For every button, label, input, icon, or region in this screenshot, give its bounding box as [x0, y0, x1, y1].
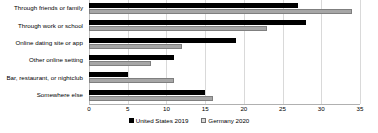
bar-united-states-2019 [89, 72, 128, 77]
x-axis-tick-label: 35 [357, 105, 364, 112]
bar-groups [89, 0, 360, 104]
bar-group [89, 17, 360, 34]
bar-group [89, 69, 360, 86]
gridline [360, 0, 361, 104]
x-axis-tick-label: 0 [87, 105, 90, 112]
bar-germany-2020 [89, 9, 352, 14]
category-label: Through work or school [0, 17, 86, 34]
plot-area [89, 0, 360, 104]
bar-germany-2020 [89, 78, 174, 83]
category-label: Through friends or family [0, 0, 86, 17]
category-label: Bar, restaurant, or nightclub [0, 69, 86, 86]
bar-united-states-2019 [89, 38, 236, 43]
category-label: Online dating site or app [0, 35, 86, 52]
x-axis-tick-label: 5 [126, 105, 129, 112]
x-axis-tick-labels: 05101520253035 [89, 105, 360, 115]
bar-group [89, 0, 360, 17]
bar-group [89, 52, 360, 69]
legend-item-germany-2020: Germany 2020 [201, 117, 249, 124]
category-axis-labels: Through friends or family Through work o… [0, 0, 86, 104]
legend-label: Germany 2020 [208, 117, 249, 124]
x-axis-tick-label: 20 [240, 105, 247, 112]
x-axis-tick-label: 25 [279, 105, 286, 112]
bar-germany-2020 [89, 44, 182, 49]
bar-group [89, 35, 360, 52]
bar-chart: Through friends or family Through work o… [0, 0, 378, 133]
bar-united-states-2019 [89, 20, 306, 25]
bar-germany-2020 [89, 96, 213, 101]
legend: United States 2019 Germany 2020 [0, 117, 378, 124]
bar-group [89, 87, 360, 104]
category-label: Other online setting [0, 52, 86, 69]
bar-germany-2020 [89, 61, 151, 66]
x-axis-tick-label: 10 [163, 105, 170, 112]
legend-swatch-icon [201, 118, 206, 123]
x-axis-tick-label: 30 [318, 105, 325, 112]
bar-united-states-2019 [89, 3, 298, 8]
x-axis-tick-label: 15 [202, 105, 209, 112]
bar-united-states-2019 [89, 55, 174, 60]
bar-germany-2020 [89, 26, 267, 31]
category-label: Somewhere else [0, 87, 86, 104]
legend-label: United States 2019 [136, 117, 189, 124]
legend-item-united-states-2019: United States 2019 [129, 117, 189, 124]
legend-swatch-icon [129, 118, 134, 123]
bar-united-states-2019 [89, 90, 205, 95]
